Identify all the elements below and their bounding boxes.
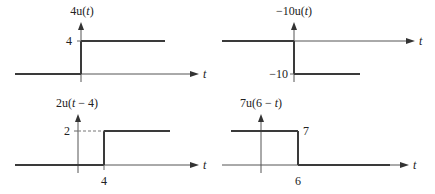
y-axis-arrow-icon <box>75 114 81 122</box>
panel-title: 2u(t − 4) <box>56 96 98 110</box>
y-level-label: 7 <box>303 124 309 138</box>
panel-neg10u-t: t −10 −10u(t) <box>222 4 423 82</box>
x-tick-label: 6 <box>295 174 301 188</box>
panel-title: 7u(6 − t) <box>240 96 282 110</box>
panel-4u-t: t 4 4u(t) <box>15 4 207 82</box>
panel-title: −10u(t) <box>276 4 312 18</box>
y-axis-arrow-icon <box>291 22 297 30</box>
x-axis-label: t <box>203 67 207 81</box>
x-axis-label: t <box>419 34 423 48</box>
step-function-figure: t 4 4u(t) t −10 −10u(t) t 2 4 <box>0 0 435 194</box>
y-axis-arrow-icon <box>78 22 84 30</box>
x-tick-label: 4 <box>101 174 107 188</box>
y-tick-label: −10 <box>269 67 288 81</box>
y-tick-label: 4 <box>66 34 72 48</box>
x-axis-label: t <box>413 158 417 172</box>
panel-7u-6-minus-t: t 7 6 7u(6 − t) <box>222 96 417 188</box>
x-axis-arrow-icon <box>190 71 199 77</box>
x-axis-label: t <box>203 158 207 172</box>
x-axis-arrow-icon <box>406 38 415 44</box>
panel-title: 4u(t) <box>70 4 93 18</box>
x-axis-arrow-icon <box>400 162 409 168</box>
x-axis-arrow-icon <box>190 162 199 168</box>
y-tick-label: 2 <box>64 124 70 138</box>
panel-2u-t-minus-4: t 2 4 2u(t − 4) <box>15 96 207 188</box>
y-axis-arrow-icon <box>258 114 264 122</box>
